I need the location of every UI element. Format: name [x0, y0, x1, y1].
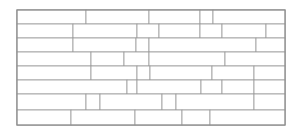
brick	[149, 10, 200, 24]
brick	[212, 66, 254, 80]
brick	[91, 52, 124, 66]
brick	[73, 24, 137, 38]
brick	[254, 94, 285, 110]
brick	[149, 52, 225, 66]
brick	[137, 66, 150, 80]
brick	[137, 24, 159, 38]
brick-tiling-figure	[0, 0, 297, 137]
brick	[150, 66, 212, 80]
tiling-canvas	[0, 0, 297, 137]
brick	[17, 24, 73, 38]
brick	[17, 110, 71, 125]
brick	[127, 80, 137, 94]
brick	[213, 10, 285, 24]
brick	[149, 38, 256, 52]
brick	[201, 80, 222, 94]
brick-layer	[17, 10, 285, 125]
brick	[159, 24, 200, 38]
brick	[200, 10, 213, 24]
brick	[222, 80, 254, 94]
brick	[17, 66, 91, 80]
brick	[266, 24, 285, 38]
brick	[222, 24, 266, 38]
brick	[124, 52, 149, 66]
brick	[17, 52, 91, 66]
brick	[182, 110, 210, 125]
brick	[17, 80, 127, 94]
brick	[100, 94, 162, 110]
brick	[73, 38, 136, 52]
brick	[86, 94, 100, 110]
brick	[71, 110, 135, 125]
brick	[136, 38, 149, 52]
brick	[225, 52, 285, 66]
brick	[210, 110, 285, 125]
brick	[254, 66, 285, 80]
brick	[17, 94, 86, 110]
brick	[17, 10, 86, 24]
brick	[176, 94, 254, 110]
brick	[137, 80, 201, 94]
brick	[200, 24, 222, 38]
brick	[135, 110, 182, 125]
brick	[256, 38, 285, 52]
brick	[86, 10, 149, 24]
brick	[254, 80, 285, 94]
brick	[91, 66, 137, 80]
brick	[17, 38, 73, 52]
brick	[162, 94, 176, 110]
